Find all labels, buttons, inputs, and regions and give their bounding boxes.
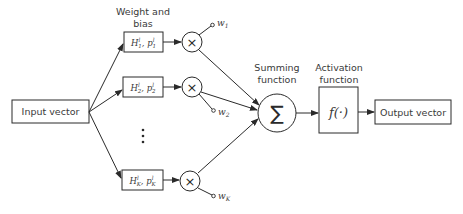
weight-bias-line2: bias	[133, 18, 152, 29]
edge-input-weight-k	[89, 112, 121, 178]
weight-wk-terminal	[212, 194, 216, 198]
weight-w2-stem	[199, 94, 212, 109]
weight-box-1: Hl1, pl1	[124, 32, 163, 52]
sigma-icon: ∑	[270, 101, 284, 125]
svg-text:function: function	[258, 74, 297, 85]
input-vector-label: Input vector	[22, 106, 80, 117]
weight-w2-terminal	[212, 109, 216, 113]
activation-header: Activation function	[315, 62, 363, 85]
multiply-icon: ×	[187, 80, 198, 95]
svg-text:Activation: Activation	[315, 62, 363, 73]
activation-node: f(·)	[319, 87, 358, 133]
weight-wk-stem	[198, 188, 212, 195]
weight-w2-label: w2	[218, 107, 230, 118]
svg-text:HlK, plK: HlK, plK	[128, 175, 156, 187]
neuron-diagram: Input vector Weight and bias Hl1, pl1 × …	[0, 0, 463, 214]
summing-header: Summing function	[254, 62, 299, 85]
weight-w1-terminal	[211, 23, 215, 27]
svg-text:function: function	[320, 74, 359, 85]
weight-bias-line1: Weight and	[116, 6, 170, 17]
edge-input-weight-1	[89, 44, 123, 112]
weight-bias-header: Weight and bias	[116, 6, 170, 29]
edge-multiply-1-sum	[199, 50, 259, 105]
summing-node: ∑	[258, 94, 296, 132]
multiply-icon: ×	[187, 35, 198, 50]
activation-symbol: f(·)	[328, 105, 348, 120]
output-vector-label: Output vector	[380, 107, 446, 118]
ellipsis-dots	[142, 129, 145, 144]
svg-text:Hl1, pl1: Hl1, pl1	[130, 37, 156, 49]
edge-multiply-k-sum	[198, 119, 258, 173]
weight-box-k: HlK, plK	[122, 170, 163, 190]
weight-wk-label: wK	[218, 191, 231, 202]
input-vector-node: Input vector	[12, 100, 89, 123]
edge-multiply-2-sum	[201, 92, 257, 110]
multiply-icon: ×	[185, 174, 196, 189]
svg-text:Summing: Summing	[254, 62, 299, 73]
output-vector-node: Output vector	[375, 100, 451, 124]
multiply-node-k: ×	[180, 171, 200, 191]
svg-text:Hl2, pl2: Hl2, pl2	[130, 82, 156, 94]
weight-w1-stem	[199, 26, 211, 35]
weight-w1-label: w1	[217, 18, 229, 29]
weight-box-2: Hl2, pl2	[123, 77, 163, 97]
